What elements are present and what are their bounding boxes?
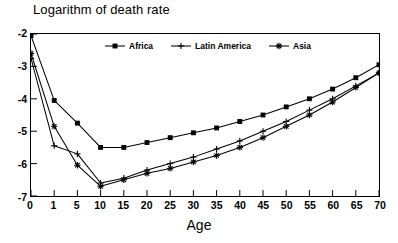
x-axis-title: Age bbox=[0, 217, 398, 233]
data-point-marker bbox=[144, 170, 150, 176]
x-tick-label: 10 bbox=[94, 199, 106, 211]
x-tick-label: 60 bbox=[327, 199, 339, 211]
data-point-marker bbox=[238, 120, 242, 124]
data-point-marker bbox=[122, 146, 126, 150]
x-tick-label: 45 bbox=[257, 199, 269, 211]
legend-item-asia[interactable]: Asia bbox=[268, 41, 311, 51]
y-tick-label: -6 bbox=[18, 158, 27, 170]
legend-marker-plus-icon bbox=[170, 41, 192, 51]
data-point-marker bbox=[178, 43, 184, 49]
data-point-marker bbox=[74, 162, 80, 168]
data-point-marker bbox=[52, 99, 56, 103]
x-tick-label: 15 bbox=[117, 199, 129, 211]
y-tick-label: -4 bbox=[18, 93, 27, 105]
data-point-marker bbox=[113, 44, 117, 48]
data-point-marker bbox=[192, 131, 196, 135]
series-latin-america bbox=[31, 55, 379, 186]
plot-area bbox=[30, 33, 380, 197]
axis-ticks bbox=[31, 34, 379, 196]
x-tick-label: 35 bbox=[211, 199, 223, 211]
data-point-marker bbox=[76, 121, 80, 125]
data-point-marker bbox=[354, 76, 358, 80]
data-point-marker bbox=[51, 143, 57, 149]
data-point-marker bbox=[306, 112, 312, 118]
data-point-marker bbox=[31, 34, 33, 37]
y-tick-label: -7 bbox=[18, 191, 27, 203]
data-point-marker bbox=[190, 159, 196, 165]
data-point-marker bbox=[237, 144, 243, 150]
data-point-marker bbox=[331, 87, 335, 91]
x-tick-label: 50 bbox=[281, 199, 293, 211]
data-point-marker bbox=[237, 138, 243, 144]
data-point-marker bbox=[167, 165, 173, 171]
data-point-marker bbox=[261, 113, 265, 117]
legend-marker-square-dot-icon bbox=[104, 41, 126, 51]
data-point-marker bbox=[284, 105, 288, 109]
x-tick-label: 25 bbox=[164, 199, 176, 211]
series-asia bbox=[31, 50, 379, 189]
legend-label: Latin America bbox=[195, 41, 251, 51]
data-point-marker bbox=[353, 84, 359, 90]
chart-figure: Logarithm of death rate -2-3-4-5-6-7 015… bbox=[0, 0, 398, 243]
y-axis-tick-labels: -2-3-4-5-6-7 bbox=[0, 0, 27, 243]
x-tick-label: 5 bbox=[74, 199, 80, 211]
data-point-marker bbox=[283, 123, 289, 129]
data-point-marker bbox=[276, 43, 282, 49]
data-point-marker bbox=[213, 152, 219, 158]
x-tick-label: 40 bbox=[234, 199, 246, 211]
data-point-marker bbox=[97, 183, 103, 189]
data-point-marker bbox=[215, 126, 219, 130]
legend-marker-asterisk-icon bbox=[268, 41, 290, 51]
data-point-marker bbox=[99, 146, 103, 150]
y-tick-label: -3 bbox=[18, 60, 27, 72]
data-point-marker bbox=[121, 177, 127, 183]
data-point-marker bbox=[308, 97, 312, 101]
legend-item-africa[interactable]: Africa bbox=[104, 41, 153, 51]
x-axis-tick-labels: 01510152025303540455055606570 bbox=[30, 199, 380, 215]
data-point-marker bbox=[214, 146, 220, 152]
data-point-marker bbox=[145, 141, 149, 145]
data-point-marker bbox=[51, 123, 57, 129]
data-point-marker bbox=[260, 135, 266, 141]
data-point-marker bbox=[377, 63, 379, 67]
plot-canvas bbox=[31, 34, 379, 196]
chart-title: Logarithm of death rate bbox=[33, 2, 170, 17]
x-tick-label: 1 bbox=[50, 199, 56, 211]
series-africa bbox=[31, 34, 379, 149]
x-tick-label: 30 bbox=[187, 199, 199, 211]
x-tick-label: 70 bbox=[374, 199, 386, 211]
x-tick-label: 0 bbox=[27, 199, 33, 211]
legend-label: Africa bbox=[129, 41, 153, 51]
legend-label: Asia bbox=[293, 41, 311, 51]
x-tick-label: 65 bbox=[351, 199, 363, 211]
x-tick-label: 55 bbox=[304, 199, 316, 211]
data-point-marker bbox=[329, 99, 335, 105]
x-tick-label: 20 bbox=[141, 199, 153, 211]
data-point-marker bbox=[260, 128, 266, 134]
chart-legend: AfricaLatin AmericaAsia bbox=[104, 41, 311, 51]
legend-item-latin-america[interactable]: Latin America bbox=[170, 41, 251, 51]
data-point-marker bbox=[168, 136, 172, 140]
y-tick-label: -2 bbox=[18, 27, 27, 39]
data-point-marker bbox=[31, 50, 34, 56]
y-tick-label: -5 bbox=[18, 125, 27, 137]
